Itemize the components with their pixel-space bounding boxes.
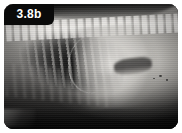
figure-container: 3.8b [0, 0, 182, 133]
figure-label-badge: 3.8b [4, 4, 54, 25]
radiograph-frame: 3.8b [4, 4, 178, 129]
collimation-streak [4, 109, 35, 127]
